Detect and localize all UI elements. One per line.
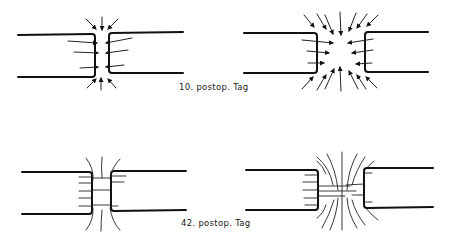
panel-bottom-right xyxy=(246,152,433,230)
left-stump xyxy=(18,34,95,77)
fibers-bridging xyxy=(79,157,126,231)
diagram-canvas xyxy=(0,0,453,236)
panel-top-right xyxy=(244,12,428,91)
left-stump xyxy=(244,33,317,73)
label-day-10: 10. postop. Tag xyxy=(179,82,248,92)
right-stump xyxy=(109,32,183,73)
right-stump xyxy=(111,171,186,211)
fibers-radiating xyxy=(303,152,378,230)
arrows-converging xyxy=(68,17,132,90)
panel-top-left xyxy=(18,17,183,90)
left-stump xyxy=(22,172,92,214)
right-stump xyxy=(365,32,428,72)
panel-bottom-left xyxy=(22,157,186,231)
right-stump xyxy=(364,168,433,208)
label-day-42: 42. postop. Tag xyxy=(181,218,250,228)
arrows-converging xyxy=(302,12,378,91)
